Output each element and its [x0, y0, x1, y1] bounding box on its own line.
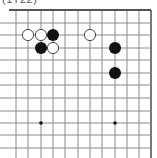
black-stone[interactable]	[109, 42, 121, 54]
white-stone[interactable]	[22, 29, 33, 40]
star-point	[113, 121, 117, 125]
star-point	[39, 121, 43, 125]
go-board-grid	[0, 0, 157, 158]
white-stone[interactable]	[47, 42, 58, 53]
black-stone[interactable]	[109, 67, 121, 79]
white-stone[interactable]	[84, 29, 95, 40]
black-stone[interactable]	[47, 29, 59, 41]
white-stone[interactable]	[35, 29, 46, 40]
black-stone[interactable]	[35, 42, 47, 54]
go-board	[0, 0, 157, 158]
